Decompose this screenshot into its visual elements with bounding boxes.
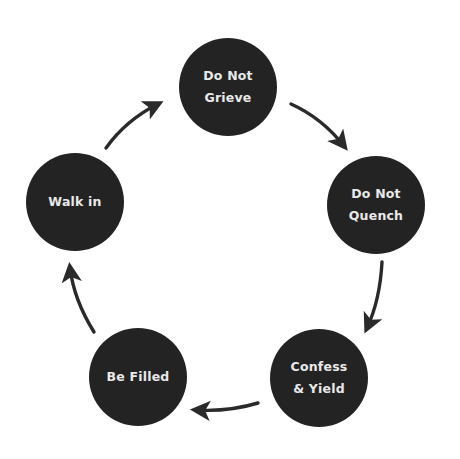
arrow-quench-to-confess: [367, 262, 382, 328]
node-do-not-quench: Do Not Quench: [327, 156, 425, 254]
node-label: Walk in: [48, 191, 101, 213]
node-label: Do Not Grieve: [203, 65, 253, 109]
node-label: Do Not Quench: [349, 183, 403, 227]
node-label: Be Filled: [107, 366, 170, 388]
arrow-walk-to-grieve: [106, 104, 158, 148]
node-walk-in: Walk in: [26, 153, 124, 251]
node-confess-and-yield: Confess & Yield: [270, 329, 368, 427]
arrow-grieve-to-quench: [291, 104, 344, 146]
arrow-confess-to-filled: [196, 403, 258, 410]
node-label: Confess & Yield: [291, 356, 348, 400]
cycle-diagram: Do Not Grieve Do Not Quench Confess & Yi…: [0, 0, 460, 459]
node-do-not-grieve: Do Not Grieve: [179, 38, 277, 136]
node-be-filled: Be Filled: [89, 328, 187, 426]
arrow-filled-to-walk: [70, 268, 94, 332]
